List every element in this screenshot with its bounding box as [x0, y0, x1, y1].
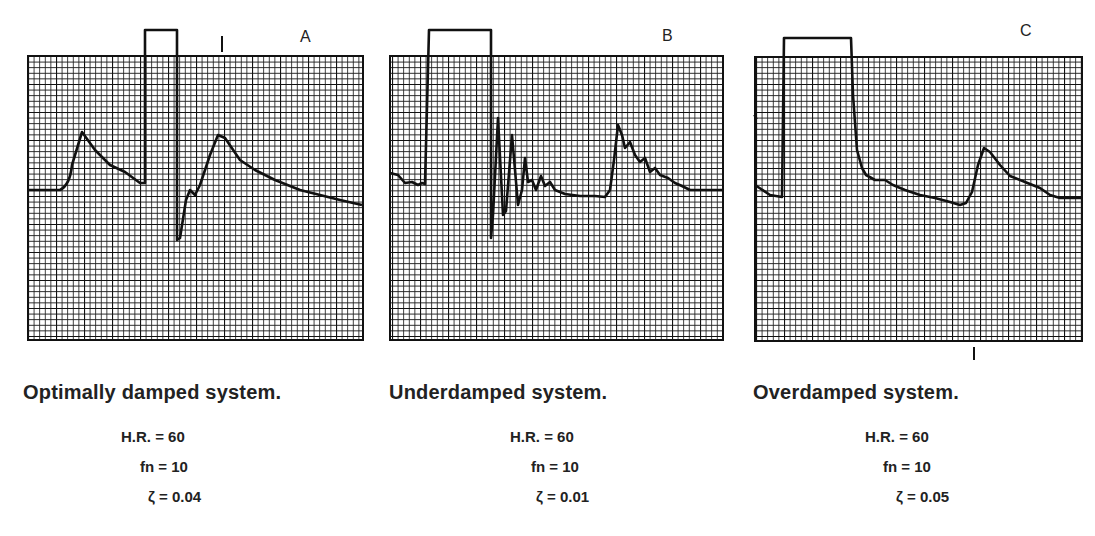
panel-a-grid [28, 56, 363, 340]
panel-b-letter: B [662, 27, 673, 45]
panel-c-caption: Overdamped system. [753, 381, 959, 404]
panel-b-caption: Underdamped system. [389, 381, 607, 404]
panel-a-letter: A [300, 28, 311, 46]
panel-a-natural-frequency: fn = 10 [140, 458, 188, 475]
panel-a-heart-rate: H.R. = 60 [121, 428, 185, 445]
panel-b-natural-frequency: fn = 10 [531, 458, 579, 475]
panel-c-letter: C [1020, 22, 1032, 40]
panel-b-damping-coefficient: ζ = 0.01 [536, 488, 589, 505]
waveform-canvas [0, 0, 1095, 536]
panel-c-heart-rate: H.R. = 60 [865, 428, 929, 445]
panel-a-caption: Optimally damped system. [23, 381, 281, 404]
panel-c-natural-frequency: fn = 10 [883, 458, 931, 475]
panel-b-grid [390, 56, 723, 340]
panel-a-damping-coefficient: ζ = 0.04 [148, 488, 201, 505]
panel-c-grid [755, 57, 1082, 341]
damping-comparison-figure: A B C Optimally damped system. Underdamp… [0, 0, 1095, 536]
panel-c-damping-coefficient: ζ = 0.05 [896, 488, 949, 505]
panel-b-heart-rate: H.R. = 60 [510, 428, 574, 445]
